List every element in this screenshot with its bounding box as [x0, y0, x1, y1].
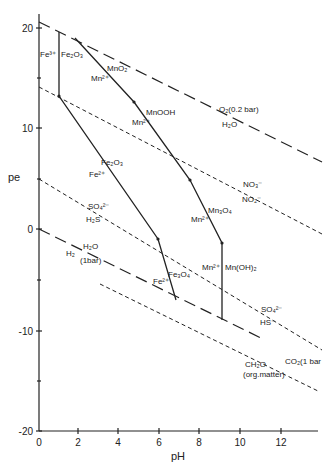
label-o2: O₂(0.2 bar) [219, 105, 259, 114]
label-mn2-b: Mn²⁺ [132, 118, 150, 127]
label-fe2o3-mid: Fe₂O₃ [101, 158, 123, 167]
label-mn3o4: Mn₃O₄ [208, 206, 232, 215]
label-mn2-c: Mn²⁺ [191, 215, 209, 224]
label-mno2: MnO₂ [107, 64, 127, 73]
label-h2: H₂ [66, 249, 75, 258]
y-tick-neg20: -20 [19, 426, 34, 437]
x-axis-label: pH [171, 450, 185, 462]
label-no2: NO₂⁻ [242, 195, 261, 204]
y-tick-20: 20 [22, 23, 34, 34]
no3-no2-line [39, 87, 322, 234]
o2-h2o-line [39, 22, 322, 162]
label-co2: CO₂(1 bar [285, 357, 321, 366]
x-tick-2: 2 [75, 437, 81, 448]
y-tick-10: 10 [22, 123, 34, 134]
label-mnooh: MnOOH [146, 108, 176, 117]
label-org-matter: (org.matter) [243, 370, 285, 379]
label-no3: NO₃⁻ [243, 180, 262, 189]
ch2o-co2-line [100, 284, 318, 391]
chart-canvas: 20 10 0 -10 -20 0 2 4 6 8 10 12 pH pe [0, 0, 336, 469]
boundary-lines [59, 32, 222, 320]
label-fe2-mid: Fe²⁺ [89, 170, 105, 179]
h2o-h2-line [39, 229, 265, 340]
label-ch2o: CH₂O [245, 360, 266, 369]
x-tick-4: 4 [115, 437, 121, 448]
label-so4-a: SO₄²⁻ [88, 202, 110, 211]
redox-lines [39, 87, 322, 391]
x-tick-6: 6 [156, 437, 162, 448]
y-axis-label: pe [8, 171, 20, 183]
y-tick-0: 0 [27, 224, 33, 235]
label-fe3: Fe³⁺ [40, 50, 56, 59]
label-h2o-top: H₂O [222, 120, 237, 129]
x-tick-8: 8 [196, 437, 202, 448]
water-lines [39, 22, 322, 340]
y-tick-neg10: -10 [19, 326, 34, 337]
label-mn2-d: Mn²⁺ [202, 263, 220, 272]
y-tick-labels: 20 10 0 -10 -20 [19, 23, 34, 437]
x-tick-labels: 0 2 4 6 8 10 12 [36, 437, 287, 448]
x-tick-10: 10 [234, 437, 246, 448]
label-fe2-low: Fe²⁺ [153, 277, 169, 286]
label-h2o-low: H₂O [83, 242, 98, 251]
pe-ph-diagram: 20 10 0 -10 -20 0 2 4 6 8 10 12 pH pe [0, 0, 336, 469]
label-mn2-a: Mn²⁺ [91, 74, 109, 83]
label-1bar: (1bar) [80, 256, 102, 265]
label-hs: HS⁻ [260, 318, 275, 327]
label-fe3o4: Fe₃O₄ [168, 270, 190, 279]
label-h2s: H₂S [86, 215, 100, 224]
label-fe2o3-top: Fe₂O₃ [61, 50, 83, 59]
x-tick-0: 0 [36, 437, 42, 448]
label-mnoh2: Mn(OH)₂ [225, 263, 257, 272]
species-labels: Fe³⁺ Fe₂O₃ MnO₂ Mn²⁺ MnOOH Mn²⁺ O₂(0.2 b… [40, 50, 321, 379]
label-so4-b: SO₄²⁻ [261, 305, 283, 314]
x-tick-12: 12 [275, 437, 287, 448]
